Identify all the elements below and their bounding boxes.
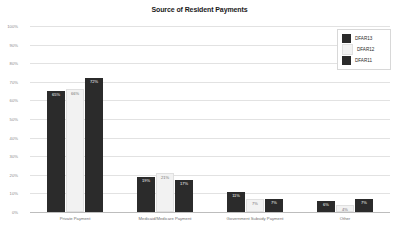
- y-axis-tick-label: 0%: [0, 210, 18, 215]
- legend-color-swatch: [342, 44, 353, 55]
- bar-value-label: 7%: [271, 201, 277, 205]
- bar-value-label: 7%: [361, 201, 367, 205]
- y-axis-tick-label: 80%: [0, 61, 18, 66]
- bar[interactable]: 7%: [265, 199, 283, 212]
- bar[interactable]: 19%: [137, 177, 155, 212]
- bar-value-label: 4%: [342, 208, 348, 212]
- bar[interactable]: 65%: [47, 91, 65, 212]
- y-axis-tick-label: 70%: [0, 80, 18, 85]
- y-axis-tick-label: 40%: [0, 136, 18, 141]
- legend-item-label: DFAR11: [355, 58, 372, 63]
- bar[interactable]: 72%: [85, 78, 103, 212]
- bar-value-label: 6%: [323, 203, 329, 207]
- x-axis-category-label: Private Payment: [60, 216, 91, 221]
- bar-value-label: 21%: [161, 176, 169, 180]
- y-axis-tick-label: 10%: [0, 191, 18, 196]
- legend-color-swatch: [342, 56, 351, 65]
- legend-item-label: DFAR13: [355, 36, 372, 41]
- plot-area: 100%90%80%70%60%50%40%30%20%10%0%65%66%7…: [30, 26, 390, 212]
- bar[interactable]: 11%: [227, 192, 245, 212]
- bar-value-label: 65%: [52, 93, 60, 97]
- bar-value-label: 66%: [71, 92, 79, 96]
- bar-value-label: 11%: [232, 194, 240, 198]
- y-axis-tick-label: 60%: [0, 98, 18, 103]
- y-axis-tick-label: 90%: [0, 43, 18, 48]
- bar[interactable]: 21%: [156, 173, 174, 212]
- x-axis-category-label: Government Subsidy Payment: [227, 216, 284, 221]
- x-axis-category-label: Medicaid/Medicare Payment: [139, 216, 192, 221]
- bar-group: 11%7%7%Government Subsidy Payment: [227, 26, 283, 212]
- bar-group: 65%66%72%Private Payment: [47, 26, 103, 212]
- bar-value-label: 72%: [90, 80, 98, 84]
- legend-item[interactable]: DFAR11: [342, 55, 386, 66]
- chart-title: Source of Resident Payments: [0, 6, 399, 13]
- bar-value-label: 19%: [142, 179, 150, 183]
- bar[interactable]: 7%: [246, 199, 264, 212]
- bar[interactable]: 6%: [317, 201, 335, 212]
- y-axis-tick-label: 100%: [0, 24, 18, 29]
- legend-item[interactable]: DFAR13: [342, 33, 386, 44]
- y-axis-tick-label: 20%: [0, 173, 18, 178]
- bar[interactable]: 7%: [355, 199, 373, 212]
- y-axis-tick-label: 50%: [0, 117, 18, 122]
- bar[interactable]: 66%: [66, 89, 84, 212]
- legend-item-label: DFAR12: [357, 47, 374, 52]
- bar[interactable]: 4%: [336, 205, 354, 212]
- legend-item[interactable]: DFAR12: [342, 44, 386, 55]
- chart-legend: DFAR13DFAR12DFAR11: [337, 29, 391, 70]
- axis-baseline: [30, 212, 390, 213]
- bar-value-label: 7%: [252, 202, 258, 206]
- x-axis-category-label: Other: [340, 216, 350, 221]
- bar-value-label: 17%: [180, 182, 188, 186]
- chart-container: Source of Resident Payments 100%90%80%70…: [0, 0, 399, 239]
- bar[interactable]: 17%: [175, 180, 193, 212]
- legend-color-swatch: [342, 34, 351, 43]
- y-axis-tick-label: 30%: [0, 154, 18, 159]
- bar-group: 19%21%17%Medicaid/Medicare Payment: [137, 26, 193, 212]
